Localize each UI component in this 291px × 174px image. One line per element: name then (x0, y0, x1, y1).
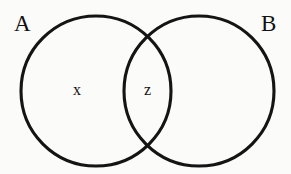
venn-diagram-figure: A B x z (0, 0, 291, 174)
label-set-a: A (14, 12, 31, 35)
label-set-b: B (261, 12, 276, 35)
label-region-intersection: z (144, 82, 151, 98)
label-region-a-only: x (73, 82, 81, 98)
